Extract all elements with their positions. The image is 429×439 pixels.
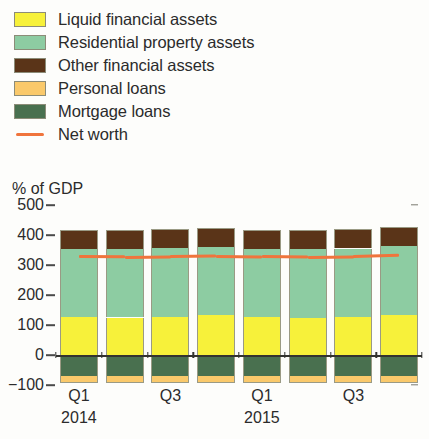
y-tick-label--100: −100 <box>8 376 44 394</box>
bar-q4-2015[interactable] <box>380 205 418 385</box>
x-tick-label-q1-2014: Q1 <box>68 387 89 405</box>
y-tick-label-300: 300 <box>17 256 44 274</box>
bar-segment-personal-loans <box>151 376 189 383</box>
bar-segment-liquid-financial-assets <box>106 318 144 356</box>
bar-segment-residential-property-assets <box>151 248 189 316</box>
bar-segment-mortgage-loans <box>151 355 189 376</box>
bar-segment-mortgage-loans <box>60 355 98 376</box>
y-tick-label-400: 400 <box>17 226 44 244</box>
x-tick-mark-6 <box>330 352 331 358</box>
bar-q2-2014[interactable] <box>106 205 144 385</box>
bar-segment-residential-property-assets <box>60 249 98 317</box>
bar-q1-2015[interactable] <box>243 205 281 385</box>
x-tick-label-q1-2015: Q1 <box>251 387 272 405</box>
legend-label-net-worth: Net worth <box>58 126 128 143</box>
legend-label-other-financial-assets: Other financial assets <box>58 57 214 74</box>
bar-segment-other-financial-assets <box>151 229 189 248</box>
bar-segment-mortgage-loans <box>380 355 418 376</box>
bar-q3-2015[interactable] <box>334 205 372 385</box>
legend-item-liquid-financial-assets: Liquid financial assets <box>14 8 414 31</box>
bar-segment-mortgage-loans <box>106 355 144 376</box>
bar-segment-liquid-financial-assets <box>151 317 189 355</box>
y-tick-mark-100 <box>46 324 55 326</box>
bar-q1-2014[interactable] <box>60 205 98 385</box>
net-worth-line-segment <box>125 255 171 258</box>
bar-segment-liquid-financial-assets <box>197 315 235 355</box>
legend-swatch-liquid-financial-assets <box>14 12 46 27</box>
y-axis: 5004003002001000−100 <box>0 205 56 385</box>
bar-segment-personal-loans <box>60 376 98 383</box>
legend-label-personal-loans: Personal loans <box>58 80 166 97</box>
bar-segment-residential-property-assets <box>106 249 144 317</box>
bar-segment-liquid-financial-assets <box>289 318 327 355</box>
bar-segment-residential-property-assets <box>289 249 327 318</box>
legend-item-personal-loans: Personal loans <box>14 77 414 100</box>
x-tick-label-q3-2014: Q3 <box>160 387 181 405</box>
legend-swatch-mortgage-loans <box>14 104 46 119</box>
bar-segment-other-financial-assets <box>380 227 418 246</box>
legend-line-net-worth <box>14 127 46 142</box>
x-tick-mark-4 <box>238 352 239 358</box>
bar-segment-residential-property-assets <box>243 249 281 317</box>
bar-segment-personal-loans <box>106 376 144 383</box>
y-tick-mark-500 <box>46 204 55 206</box>
y-tick-mark-200 <box>46 294 55 296</box>
x-tick-mark-5 <box>284 352 285 358</box>
y-tick-mark--100 <box>46 384 55 386</box>
x-tick-mark-1 <box>101 352 102 358</box>
x-tick-mark-3 <box>193 352 194 358</box>
bar-segment-other-financial-assets <box>289 230 327 249</box>
bar-segment-mortgage-loans <box>243 355 281 376</box>
x-tick-mark-0 <box>55 352 56 358</box>
bar-segment-mortgage-loans <box>197 355 235 376</box>
x-axis-year-label-2015: 2015 <box>244 409 280 427</box>
bar-segment-personal-loans <box>243 376 281 383</box>
bar-q2-2015[interactable] <box>289 205 327 385</box>
bar-segment-liquid-financial-assets <box>380 315 418 355</box>
bar-q4-2014[interactable] <box>197 205 235 385</box>
x-axis-year-label-2014: 2014 <box>61 409 97 427</box>
legend-label-mortgage-loans: Mortgage loans <box>58 103 170 120</box>
legend-swatch-other-financial-assets <box>14 58 46 73</box>
bar-segment-liquid-financial-assets <box>243 317 281 355</box>
net-worth-line-segment <box>308 255 354 258</box>
bar-segment-personal-loans <box>380 376 418 383</box>
net-worth-line-segment <box>216 255 262 258</box>
bar-segment-mortgage-loans <box>334 355 372 376</box>
x-axis: Q12014Q3Q12015Q3 <box>56 387 422 439</box>
y-tick-label-500: 500 <box>17 196 44 214</box>
bars-container <box>56 205 422 385</box>
bar-segment-other-financial-assets <box>334 229 372 248</box>
bar-segment-personal-loans <box>289 376 327 383</box>
legend-label-liquid-financial-assets: Liquid financial assets <box>58 11 217 28</box>
chart-plot-area: 5004003002001000−100 Q12014Q3Q12015Q3 <box>0 205 429 439</box>
bar-q3-2014[interactable] <box>151 205 189 385</box>
bar-segment-mortgage-loans <box>289 355 327 376</box>
y-tick-label-100: 100 <box>17 316 44 334</box>
legend-swatch-personal-loans <box>14 81 46 96</box>
bar-segment-other-financial-assets <box>197 228 235 247</box>
bar-segment-personal-loans <box>334 376 372 383</box>
bar-segment-residential-property-assets <box>334 249 372 318</box>
x-tick-label-q3-2015: Q3 <box>343 387 364 405</box>
y-tick-mark-0 <box>46 354 55 356</box>
bar-segment-personal-loans <box>197 376 235 383</box>
legend-swatch-residential-property-assets <box>14 35 46 50</box>
legend-item-residential-property-assets: Residential property assets <box>14 31 414 54</box>
legend-item-net-worth: Net worth <box>14 123 414 146</box>
legend-label-residential-property-assets: Residential property assets <box>58 34 254 51</box>
legend-item-other-financial-assets: Other financial assets <box>14 54 414 77</box>
chart-legend: Liquid financial assets Residential prop… <box>14 8 414 146</box>
bar-segment-other-financial-assets <box>243 230 281 249</box>
legend-item-mortgage-loans: Mortgage loans <box>14 100 414 123</box>
y-tick-mark-400 <box>46 234 55 236</box>
x-tick-mark-8 <box>421 352 422 358</box>
bar-segment-liquid-financial-assets <box>60 317 98 355</box>
bar-segment-liquid-financial-assets <box>334 317 372 355</box>
y-tick-mark-300 <box>46 264 55 266</box>
bar-segment-other-financial-assets <box>60 230 98 249</box>
x-tick-mark-2 <box>147 352 148 358</box>
bar-segment-other-financial-assets <box>106 230 144 249</box>
y-tick-label-0: 0 <box>35 346 44 364</box>
y-tick-label-200: 200 <box>17 286 44 304</box>
